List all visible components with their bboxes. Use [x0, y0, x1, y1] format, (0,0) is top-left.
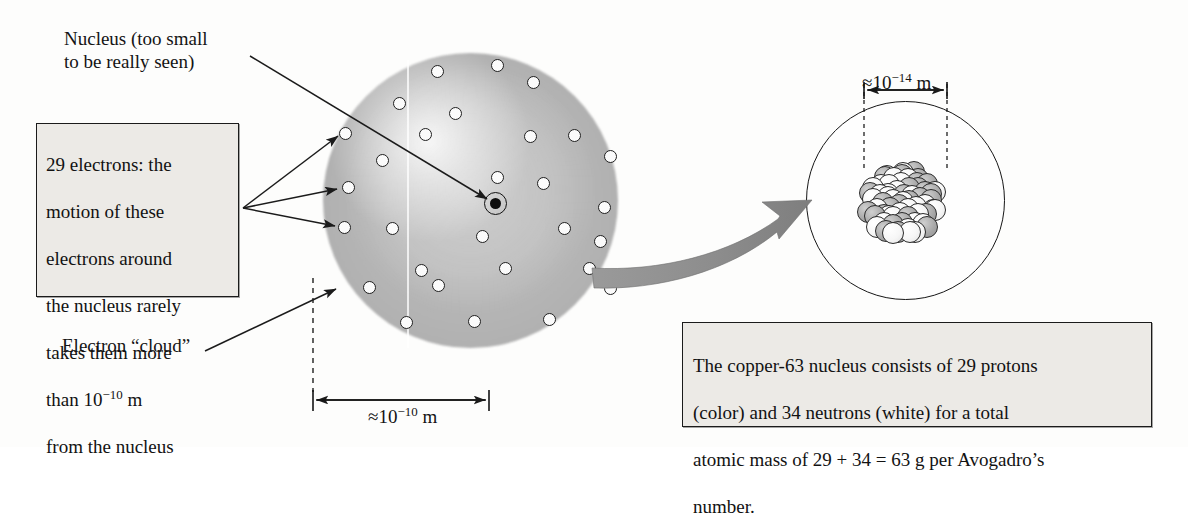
- electron-arrow-2: [243, 189, 337, 208]
- electrons-box-line-4: the nucleus rarely: [46, 294, 230, 318]
- electrons-box-line-6-pre: than 10: [46, 389, 102, 410]
- electrons-box-line-6-unit: m: [123, 389, 143, 410]
- nucleus-scale-exponent: −14: [891, 70, 911, 85]
- caption-line-4: number.: [693, 495, 1141, 517]
- electrons-box-line-6-exponent: −10: [102, 387, 122, 402]
- neutron: [882, 222, 904, 244]
- nucleus-callout-label: Nucleus (too small to be really seen): [64, 27, 208, 73]
- electrons-box-line-5: takes them more: [46, 341, 230, 365]
- electrons-box-line-1: 29 electrons: the: [46, 153, 230, 177]
- atom-scale-base: ≈10: [368, 406, 397, 427]
- caption-line-2: (color) and 34 neutrons (white) for a to…: [693, 401, 1141, 425]
- atom-scale-unit: m: [418, 406, 438, 427]
- electrons-box-line-7: from the nucleus: [46, 435, 230, 459]
- caption-line-1: The copper-63 nucleus consists of 29 pro…: [693, 354, 1141, 378]
- nucleus-scale-base: ≈10: [862, 72, 891, 93]
- atom-scale-exponent: −10: [397, 404, 417, 419]
- caption-line-3: atomic mass of 29 + 34 = 63 g per Avogad…: [693, 448, 1141, 472]
- nucleus-scale-label: ≈10−14 m: [862, 48, 931, 94]
- nucleus-leader-line: [250, 56, 487, 199]
- atom-scale-label: ≈10−10 m: [368, 382, 437, 428]
- electrons-description-box: 29 electrons: the motion of these electr…: [36, 123, 239, 297]
- electrons-box-line-2: motion of these: [46, 200, 230, 224]
- electron-arrow-3: [243, 208, 335, 226]
- nucleus-scale-unit: m: [912, 72, 932, 93]
- electrons-box-line-3: electrons around: [46, 247, 230, 271]
- electron-arrow-1: [243, 136, 338, 208]
- caption-box: The copper-63 nucleus consists of 29 pro…: [682, 322, 1152, 427]
- magnification-arrow: [592, 200, 812, 288]
- electrons-box-line-6: than 10−10 m: [46, 388, 230, 412]
